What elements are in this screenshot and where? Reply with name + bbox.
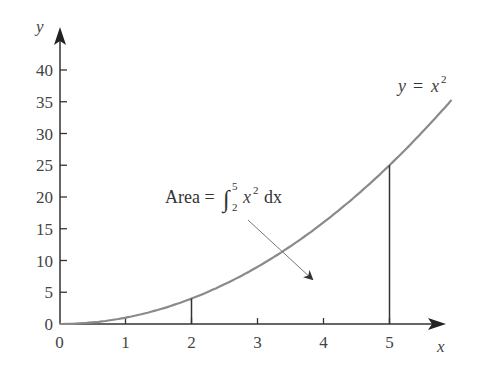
bound-lines — [192, 165, 390, 324]
y-tick-label: 5 — [45, 283, 54, 302]
curve-label-eq: = — [413, 76, 423, 96]
axes — [54, 27, 446, 330]
area-arrow-icon — [248, 220, 312, 279]
y-tick-label: 25 — [36, 156, 53, 175]
chart: 0510152025303540 012345 y x y = x 2 Area… — [0, 0, 477, 375]
y-tick-label: 35 — [36, 93, 53, 112]
curve-label-y: y — [396, 76, 406, 96]
area-label-word: Area = — [165, 187, 215, 207]
area-upper-limit: 5 — [232, 180, 238, 192]
y-tick-label: 0 — [45, 315, 54, 334]
curve-label: y = x 2 — [396, 73, 447, 96]
y-tick-label: 30 — [36, 125, 53, 144]
y-ticks: 0510152025303540 — [36, 61, 67, 334]
area-label-exp: 2 — [253, 184, 259, 196]
area-lower-limit: 2 — [232, 201, 238, 213]
x-tick-label: 4 — [319, 333, 328, 352]
curve-label-exp: 2 — [441, 73, 447, 85]
x-tick-label: 3 — [253, 333, 262, 352]
x-tick-label: 0 — [55, 333, 64, 352]
integral-sign-icon: ∫ — [221, 186, 231, 214]
area-annotation: Area = ∫ 5 2 x 2 dx — [165, 180, 312, 279]
area-label-dx: dx — [264, 187, 282, 207]
area-label-x: x — [242, 187, 251, 207]
y-tick-label: 15 — [36, 220, 53, 239]
y-tick-label: 10 — [36, 252, 53, 271]
curve-label-x: x — [430, 76, 439, 96]
y-tick-label: 40 — [36, 61, 53, 80]
curve-x-squared — [60, 100, 452, 324]
x-tick-label: 1 — [121, 333, 130, 352]
x-tick-label: 5 — [385, 333, 394, 352]
y-tick-label: 20 — [36, 188, 53, 207]
x-axis-label: x — [436, 337, 445, 356]
x-tick-label: 2 — [187, 333, 196, 352]
y-axis-label: y — [34, 17, 44, 36]
x-ticks: 012345 — [55, 318, 394, 352]
